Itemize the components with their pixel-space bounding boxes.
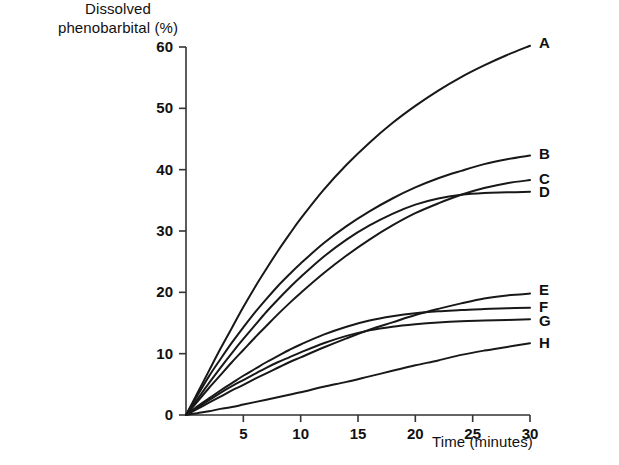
y-tick-label: 10 — [143, 345, 173, 362]
chart-figure: Dissolved phenobarbital (%) Time (minute… — [0, 0, 619, 465]
series-label-g: G — [539, 312, 551, 329]
series-label-e: E — [539, 281, 549, 298]
series-label-d: D — [539, 183, 550, 200]
axis-spines — [186, 47, 530, 415]
y-tick-label: 40 — [143, 161, 173, 178]
y-tick-label: 20 — [143, 283, 173, 300]
curve-f — [186, 308, 530, 415]
x-tick-label: 30 — [515, 425, 545, 442]
plot-area — [0, 0, 619, 465]
data-curves — [186, 46, 530, 415]
curve-d — [186, 192, 530, 415]
curve-e — [186, 294, 530, 415]
curve-b — [186, 156, 530, 415]
y-tick-label: 50 — [143, 99, 173, 116]
series-label-h: H — [539, 334, 550, 351]
y-tick-label: 0 — [143, 406, 173, 423]
y-tick-label: 60 — [143, 38, 173, 55]
series-label-a: A — [539, 34, 550, 51]
x-tick-label: 10 — [286, 425, 316, 442]
x-tick-label: 20 — [400, 425, 430, 442]
x-tick-label: 5 — [228, 425, 258, 442]
x-tick-label: 25 — [458, 425, 488, 442]
curve-a — [186, 46, 530, 415]
y-tick-label: 30 — [143, 222, 173, 239]
series-label-b: B — [539, 145, 550, 162]
x-tick-label: 15 — [343, 425, 373, 442]
